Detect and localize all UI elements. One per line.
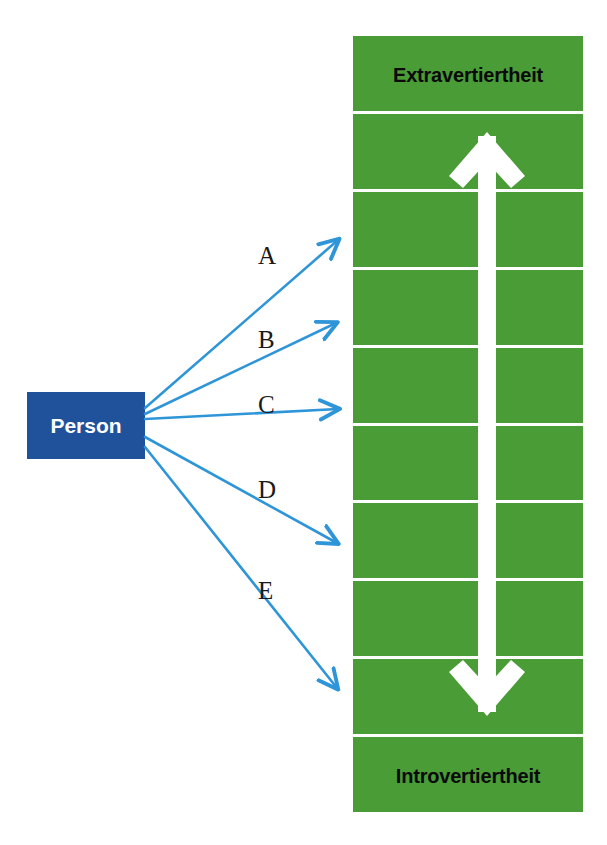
scale-segment-10: Introvertiertheit [353,737,583,812]
scale-segment-3 [353,192,583,267]
scale-segment-6 [353,426,583,501]
connector-label-b: B [258,327,275,352]
connector-arrow-d [145,437,337,543]
connector-arrow-b [145,323,336,414]
person-source-box: Person [27,392,145,459]
scale-segment-2 [353,114,583,189]
scale-segment-9 [353,659,583,734]
scale-segment-4 [353,270,583,345]
diagram-canvas: Extravertiertheit Introvertiertheit Pers… [0,0,607,845]
connector-arrow-a [145,240,338,408]
connector-arrow-c [145,409,338,419]
person-box-label: Person [50,414,121,438]
connector-arrow-e [145,447,337,688]
extraversion-pole-label: Extravertiertheit [393,65,543,85]
connector-label-e: E [258,578,273,603]
scale-segment-7 [353,503,583,578]
extraversion-scale-column: Extravertiertheit Introvertiertheit [353,36,583,812]
scale-segment-8 [353,581,583,656]
scale-segment-5 [353,348,583,423]
scale-segment-1: Extravertiertheit [353,36,583,111]
introversion-pole-label: Introvertiertheit [396,766,540,786]
connector-label-a: A [258,243,276,268]
connector-label-c: C [258,392,275,417]
connector-label-d: D [258,477,276,502]
